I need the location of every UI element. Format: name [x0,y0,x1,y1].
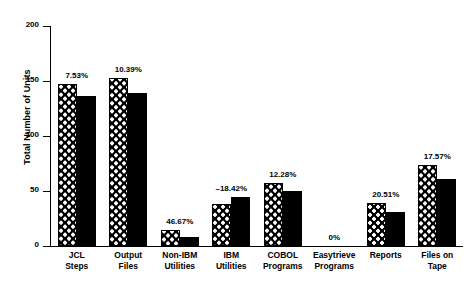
bar-series-b [128,93,147,246]
bar-pair: 7.53% [58,20,96,246]
x-axis-label-line1: IBM [223,250,239,260]
bar-groups: 7.53%10.39%46.67%–18.42%12.28%0%20.51%17… [51,20,463,246]
bar-group: 20.51% [360,20,412,246]
x-axis-label-0: JCLSteps [51,250,103,272]
bar-value-label: 17.57% [424,152,451,161]
x-axis-label-line1: Output [114,250,142,260]
bar-series-a [161,230,180,247]
bar-pair: 0% [315,20,353,246]
y-axis-title: Total Number of Units [22,42,32,192]
x-axis-label-4: COBOLPrograms [257,250,309,272]
y-axis-tick: 0 [43,246,51,247]
y-axis-tick-label: 100 [26,130,39,139]
bar-group: 0% [309,20,361,246]
x-axis-label-line1: JCL [69,250,85,260]
bar-series-b [180,237,199,246]
x-axis-label-1: OutputFiles [103,250,155,272]
x-axis-label-line1: Non-IBM [162,250,197,260]
bar-group: 7.53% [51,20,103,246]
bar-pair: 12.28% [264,20,302,246]
x-axis-label-line1: Reports [370,250,402,260]
x-axis-label-5: EasytrievePrograms [309,250,361,272]
bar-pair: 20.51% [367,20,405,246]
bar-series-a [212,204,231,246]
y-axis-tick-label: 50 [30,185,39,194]
bar-group: 46.67% [154,20,206,246]
bar-series-b [386,212,405,246]
x-axis-label-line2: Steps [51,261,103,272]
bar-value-label: 10.39% [115,65,142,74]
bar-series-a [418,165,437,246]
x-axis-label-line1: COBOL [267,250,298,260]
bar-value-label: 20.51% [372,190,399,199]
y-axis-tick-label: 0 [35,240,39,249]
x-axis-label-line2: Utilities [206,261,258,272]
x-axis-label-line1: Files on [421,250,453,260]
bar-group: 12.28% [257,20,309,246]
bar-value-label: 7.53% [65,71,88,80]
bar-series-a [264,183,283,246]
x-axis-label-line1: Easytrieve [313,250,356,260]
y-axis-tick-label: 150 [26,75,39,84]
bar-group: 17.57% [412,20,464,246]
x-axis-label-line2: Utilities [154,261,206,272]
x-axis-label-line2: Files [103,261,155,272]
x-axis-line [50,246,463,247]
bar-pair: 46.67% [161,20,199,246]
bar-series-a [367,203,386,246]
bar-series-b [77,96,96,246]
bar-series-a [109,78,128,246]
x-axis-label-line2: Programs [257,261,309,272]
x-axis-label-2: Non-IBMUtilities [154,250,206,272]
x-axis-labels: JCLStepsOutputFilesNon-IBMUtilitiesIBMUt… [51,250,463,272]
bar-value-label: –18.42% [215,184,247,193]
y-axis-tick: 100 [43,136,51,137]
bar-group: –18.42% [206,20,258,246]
x-axis-label-line2: Tape [412,261,464,272]
bar-series-a [58,84,77,246]
y-axis-tick: 200 [43,26,51,27]
bar-value-label: 12.28% [269,170,296,179]
bar-chart: Total Number of Units 050100150200 7.53%… [0,0,467,298]
plot-area: 050100150200 7.53%10.39%46.67%–18.42%12.… [50,20,465,246]
x-axis-label-line2: Programs [309,261,361,272]
y-axis-tick-label: 200 [26,20,39,29]
bar-series-b [437,179,456,246]
bar-group: 10.39% [103,20,155,246]
y-axis-tick: 150 [43,81,51,82]
bar-pair: –18.42% [212,20,250,246]
x-axis-label-7: Files onTape [412,250,464,272]
x-axis-label-6: Reports [360,250,412,272]
bar-pair: 10.39% [109,20,147,246]
bar-series-b [231,197,250,247]
y-axis-tick: 50 [43,191,51,192]
bar-pair: 17.57% [418,20,456,246]
bar-series-b [283,191,302,246]
x-axis-label-3: IBMUtilities [206,250,258,272]
bar-value-label: 46.67% [166,217,193,226]
bar-value-label: 0% [328,233,340,242]
